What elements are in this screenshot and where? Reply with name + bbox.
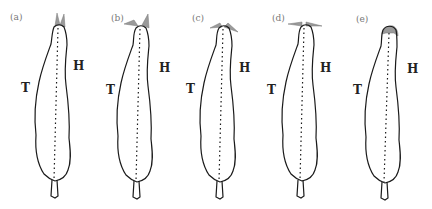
worm-body-icon <box>254 0 340 209</box>
worm-body-icon <box>338 0 424 209</box>
worm-body-icon <box>172 0 258 209</box>
panel-c: (c) T H <box>172 0 258 209</box>
panel-d: (d) T H <box>254 0 340 209</box>
panel-a: (a) T H <box>0 0 86 209</box>
worm-body-icon <box>0 0 86 209</box>
panel-e: (e) T H <box>338 0 424 209</box>
panel-b: (b) T H <box>88 0 174 209</box>
worm-body-icon <box>88 0 174 209</box>
